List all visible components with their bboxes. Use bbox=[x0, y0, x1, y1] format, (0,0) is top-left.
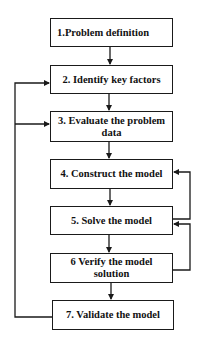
node-label: 3. Evaluate the problem data bbox=[55, 115, 168, 139]
node-label: 6 Verify the model solution bbox=[55, 256, 168, 280]
node-label: 7. Validate the model bbox=[66, 309, 160, 321]
node-label: 2. Identify key factors bbox=[63, 74, 161, 86]
node-label: 4. Construct the model bbox=[60, 168, 162, 180]
node-verify-model-solution: 6 Verify the model solution bbox=[50, 253, 173, 283]
feedback-6-to-5 bbox=[173, 224, 190, 270]
node-validate-model: 7. Validate the model bbox=[52, 300, 174, 330]
node-label: 5. Solve the model bbox=[71, 215, 152, 227]
feedback-7-to-2 bbox=[15, 83, 52, 317]
feedback-5-to-4 bbox=[173, 172, 190, 219]
node-identify-key-factors: 2. Identify key factors bbox=[50, 65, 173, 94]
node-problem-definition: 1.Problem definition bbox=[50, 18, 173, 47]
node-evaluate-problem-data: 3. Evaluate the problem data bbox=[50, 111, 173, 142]
node-construct-model: 4. Construct the model bbox=[50, 159, 173, 189]
node-solve-model: 5. Solve the model bbox=[50, 206, 173, 235]
node-label: 1.Problem definition bbox=[57, 27, 149, 39]
